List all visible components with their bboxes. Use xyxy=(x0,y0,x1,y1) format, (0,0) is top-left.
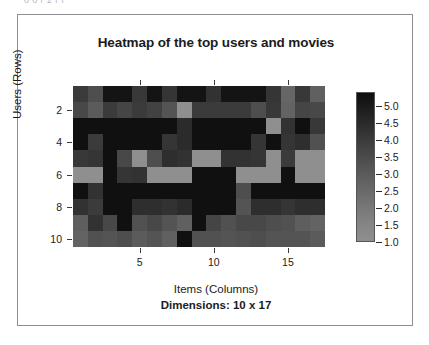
heatmap-cell xyxy=(103,167,118,183)
heatmap-cell xyxy=(73,231,88,247)
heatmap-cell xyxy=(132,150,147,166)
colorbar-tick xyxy=(376,106,382,107)
heatmap-cell xyxy=(88,118,103,134)
heatmap-cell xyxy=(177,167,192,183)
heatmap-cell xyxy=(236,231,251,247)
x-axis-tick-label: 10 xyxy=(202,256,226,268)
colorbar-tick xyxy=(376,208,382,209)
heatmap-cell xyxy=(192,86,207,102)
clipped-header-text: o o r 2 r r xyxy=(0,0,429,9)
colorbar-tick-label: 1.5 xyxy=(384,220,399,230)
colorbar-tick-label: 5.0 xyxy=(384,101,399,111)
colorbar-tick-label: 3.5 xyxy=(384,152,399,162)
heatmap-cell xyxy=(73,183,88,199)
y-axis-tick-label: 2 xyxy=(40,104,62,116)
heatmap-cell xyxy=(310,150,325,166)
heatmap-cell xyxy=(192,199,207,215)
heatmap-cell xyxy=(192,215,207,231)
heatmap-cell xyxy=(73,102,88,118)
heatmap-cell xyxy=(177,199,192,215)
x-axis-tick-label: 15 xyxy=(276,256,300,268)
heatmap-cell xyxy=(103,183,118,199)
heatmap-cell xyxy=(206,199,221,215)
x-axis-title: Items (Columns) xyxy=(18,283,414,295)
heatmap-cell xyxy=(206,118,221,134)
heatmap-cell xyxy=(221,86,236,102)
heatmap-cell xyxy=(73,86,88,102)
heatmap-cell xyxy=(251,86,266,102)
heatmap-cell xyxy=(147,215,162,231)
heatmap-cell xyxy=(162,199,177,215)
heatmap-cell xyxy=(192,183,207,199)
y-axis-title: Users (Rows) xyxy=(11,49,23,119)
heatmap-cell xyxy=(310,183,325,199)
heatmap-cell xyxy=(310,86,325,102)
heatmap-cell xyxy=(206,167,221,183)
heatmap-cell xyxy=(221,102,236,118)
heatmap-cell xyxy=(88,150,103,166)
heatmap-cell xyxy=(132,183,147,199)
heatmap-cell xyxy=(221,183,236,199)
colorbar: 5.04.54.03.53.02.52.01.51.0 xyxy=(356,92,408,242)
heatmap-cell xyxy=(88,102,103,118)
heatmap-cell xyxy=(73,134,88,150)
heatmap-cell xyxy=(162,134,177,150)
heatmap-cell xyxy=(266,167,281,183)
heatmap-cell xyxy=(281,215,296,231)
figure-frame: Heatmap of the top users and movies User… xyxy=(17,14,413,326)
heatmap-cell xyxy=(117,150,132,166)
heatmap-cell xyxy=(162,167,177,183)
heatmap-cell xyxy=(162,150,177,166)
heatmap-cell xyxy=(251,167,266,183)
heatmap-cell xyxy=(147,102,162,118)
heatmap-cell xyxy=(88,167,103,183)
heatmap-cell xyxy=(103,86,118,102)
heatmap-cell xyxy=(236,150,251,166)
heatmap-cell xyxy=(266,231,281,247)
colorbar-tick-label: 2.0 xyxy=(384,203,399,213)
heatmap-cell xyxy=(310,102,325,118)
heatmap-cell xyxy=(147,86,162,102)
heatmap-cell xyxy=(162,86,177,102)
heatmap-cell xyxy=(310,215,325,231)
heatmap-cell xyxy=(73,167,88,183)
heatmap-cell xyxy=(132,199,147,215)
colorbar-tick-label: 4.0 xyxy=(384,135,399,145)
heatmap-cell xyxy=(103,215,118,231)
heatmap-cell xyxy=(310,199,325,215)
heatmap-cell xyxy=(281,231,296,247)
heatmap-cell xyxy=(251,102,266,118)
heatmap-cell xyxy=(281,167,296,183)
y-axis-tick-label: 4 xyxy=(40,136,62,148)
y-axis-tick xyxy=(67,175,72,176)
chart-title: Heatmap of the top users and movies xyxy=(18,35,414,50)
heatmap-cell xyxy=(251,134,266,150)
colorbar-tick xyxy=(376,191,382,192)
heatmap-cell xyxy=(236,118,251,134)
heatmap-cell xyxy=(117,199,132,215)
heatmap-cell xyxy=(162,118,177,134)
heatmap-cell xyxy=(295,167,310,183)
heatmap-cell xyxy=(310,167,325,183)
x-axis-tick-top xyxy=(214,80,215,85)
heatmap-cell xyxy=(281,102,296,118)
colorbar-gradient xyxy=(356,92,375,242)
heatmap-cell xyxy=(236,86,251,102)
heatmap-cell xyxy=(206,183,221,199)
colorbar-tick-label: 4.5 xyxy=(384,118,399,128)
heatmap-cell xyxy=(295,231,310,247)
heatmap-cell xyxy=(295,183,310,199)
heatmap-cell xyxy=(266,215,281,231)
heatmap-cell xyxy=(281,118,296,134)
colorbar-tick xyxy=(376,225,382,226)
colorbar-tick xyxy=(376,157,382,158)
heatmap-cell xyxy=(117,134,132,150)
heatmap-cell xyxy=(177,150,192,166)
heatmap-cell xyxy=(221,150,236,166)
heatmap-cell xyxy=(221,167,236,183)
x-axis-tick xyxy=(288,248,289,253)
colorbar-tick xyxy=(376,242,382,243)
heatmap-cell xyxy=(147,118,162,134)
y-axis-tick-label: 6 xyxy=(40,169,62,181)
heatmap-cell xyxy=(147,231,162,247)
